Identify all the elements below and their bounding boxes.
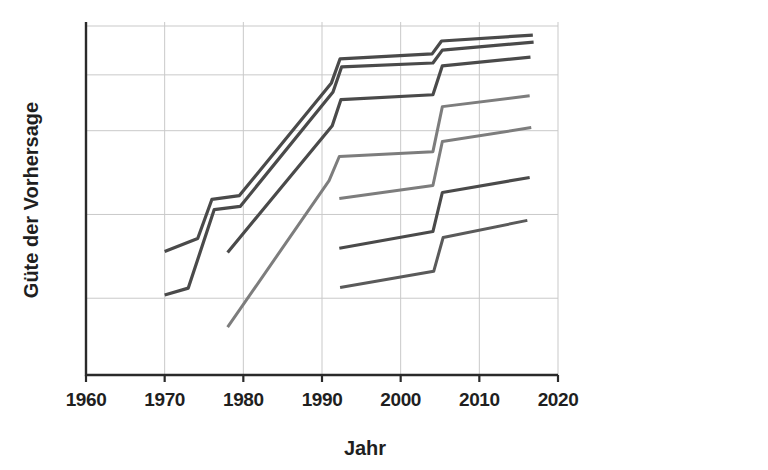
data-series-layer [165, 35, 534, 327]
chart-figure: 1960197019801990200020102020 Jahr Güte d… [0, 0, 768, 470]
chart-canvas: 1960197019801990200020102020 Jahr Güte d… [0, 0, 768, 470]
x-tick-label: 1960 [66, 389, 107, 410]
x-tick-labels: 1960197019801990200020102020 [66, 389, 579, 410]
x-tick-label: 1990 [302, 389, 343, 410]
x-tick-label: 1980 [223, 389, 264, 410]
data-line [339, 177, 529, 248]
x-tick-label: 2020 [538, 389, 579, 410]
data-line [165, 42, 534, 295]
x-tick-label: 1970 [144, 389, 185, 410]
y-axis-title: Güte der Vorhersage [20, 102, 42, 298]
x-tick-label: 2000 [380, 389, 421, 410]
gridlines [86, 22, 558, 375]
x-tick-label: 2010 [459, 389, 500, 410]
x-axis-title: Jahr [344, 437, 386, 459]
